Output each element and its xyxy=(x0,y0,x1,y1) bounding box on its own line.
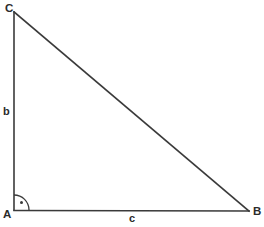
triangle-diagram: C A B b c xyxy=(0,0,264,227)
side-label-b: b xyxy=(3,106,10,117)
hypotenuse-line xyxy=(14,12,249,211)
side-c-line xyxy=(14,211,249,212)
vertex-label-c: C xyxy=(5,3,13,14)
right-angle-dot-icon xyxy=(20,201,23,204)
triangle-svg xyxy=(0,0,264,227)
side-label-c: c xyxy=(129,213,135,224)
vertex-label-b: B xyxy=(253,206,261,217)
vertex-label-a: A xyxy=(3,209,11,220)
